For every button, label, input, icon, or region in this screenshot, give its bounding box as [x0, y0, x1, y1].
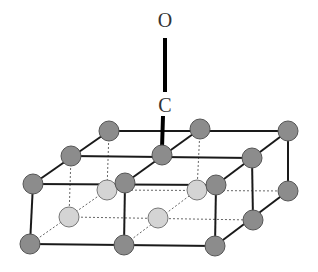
carbon-label: C — [158, 94, 171, 116]
co-adsorption-lattice-diagram: O C — [0, 0, 318, 272]
surface-atoms — [20, 119, 298, 256]
oxygen-label: O — [158, 9, 172, 31]
